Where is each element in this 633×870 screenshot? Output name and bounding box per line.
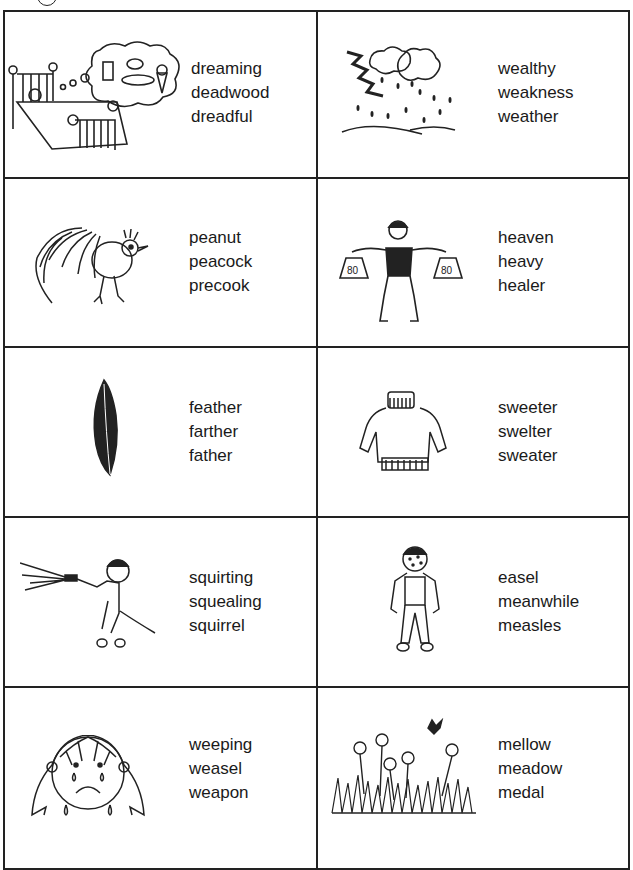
word-list-cell-9: weeping weasel weapon [189,733,252,805]
word-option[interactable]: weasel [189,757,252,781]
word-option[interactable]: medal [498,781,562,805]
boy-squirting-hose-icon [20,555,165,655]
word-option[interactable]: healer [498,274,554,298]
word-option[interactable]: swelter [498,420,558,444]
word-option[interactable]: dreadful [191,105,269,129]
word-list-cell-8: easel meanwhile measles [498,566,579,638]
word-option[interactable]: easel [498,566,579,590]
meadow-flowers-icon [330,718,480,818]
word-option[interactable]: meadow [498,757,562,781]
grid-divider-row-1 [3,177,630,179]
word-option[interactable]: squirting [189,566,262,590]
peacock-icon [32,218,152,308]
page-number-circle [37,0,57,6]
word-option[interactable]: mellow [498,733,562,757]
word-option[interactable]: sweeter [498,396,558,420]
word-list-cell-4: heaven heavy healer [498,226,554,298]
word-option[interactable]: dreaming [191,57,269,81]
word-option[interactable]: wealthy [498,57,574,81]
sleeping-child-dreaming-icon [5,40,190,150]
word-option[interactable]: deadwood [191,81,269,105]
word-option[interactable]: weapon [189,781,252,805]
word-list-cell-1: dreaming deadwood dreadful [191,57,269,129]
word-list-cell-2: wealthy weakness weather [498,57,574,129]
word-option[interactable]: weather [498,105,574,129]
word-option[interactable]: peanut [189,226,252,250]
word-option[interactable]: weeping [189,733,252,757]
grid-divider-vertical [316,10,318,870]
crying-girl-icon [30,735,150,825]
grid-divider-row-2 [3,346,630,348]
word-option[interactable]: precook [189,274,252,298]
word-option[interactable]: measles [498,614,579,638]
word-option[interactable]: heaven [498,226,554,250]
word-option[interactable]: squealing [189,590,262,614]
word-list-cell-7: squirting squealing squirrel [189,566,262,638]
word-option[interactable]: peacock [189,250,252,274]
word-option[interactable]: farther [189,420,242,444]
word-option[interactable]: meanwhile [498,590,579,614]
word-list-cell-10: mellow meadow medal [498,733,562,805]
feather-icon [86,378,126,483]
svg-text:80: 80 [347,265,359,276]
grid-divider-row-3 [3,516,630,518]
sweater-icon [356,390,456,475]
word-option[interactable]: weakness [498,81,574,105]
word-list-cell-5: feather farther father [189,396,242,468]
word-option[interactable]: squirrel [189,614,262,638]
boy-with-measles-icon [385,545,450,655]
word-option[interactable]: heavy [498,250,554,274]
strongman-weights-icon: 80 80 [338,218,468,328]
grid-divider-row-4 [3,686,630,688]
svg-text:80: 80 [441,265,453,276]
thunderstorm-icon [340,40,470,140]
word-list-cell-6: sweeter swelter sweater [498,396,558,468]
word-option[interactable]: feather [189,396,242,420]
word-option[interactable]: father [189,444,242,468]
word-option[interactable]: sweater [498,444,558,468]
word-list-cell-3: peanut peacock precook [189,226,252,298]
